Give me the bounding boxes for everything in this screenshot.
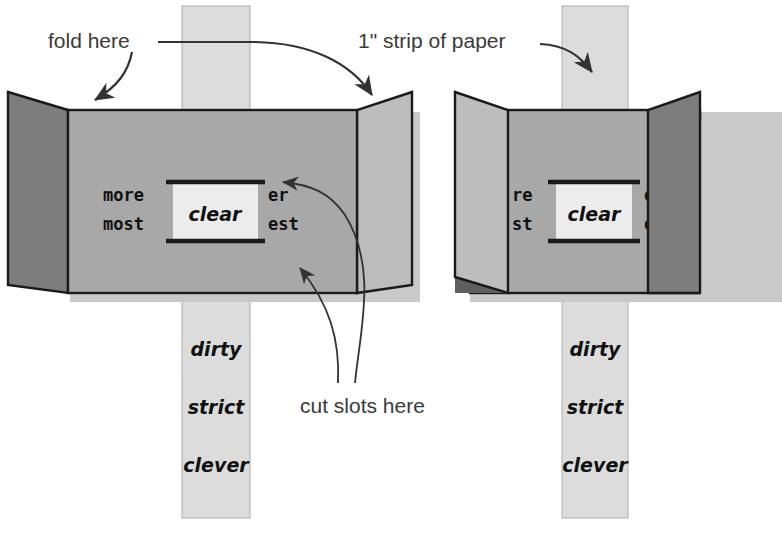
right-figure: re st er es clear dirty strict clever	[455, 6, 782, 518]
left-figure-left-flap	[8, 92, 68, 293]
right-figure-strip-word-strict: strict	[567, 396, 625, 418]
cut-slots-here-label: cut slots here	[300, 394, 425, 417]
right-figure-left-flap	[455, 92, 508, 293]
fold-here-leader-left	[95, 52, 132, 100]
left-figure-strip-word-dirty: dirty	[191, 338, 244, 360]
left-figure-right-flap	[357, 92, 412, 293]
diagram-canvas: more most er est clear dirty strict clev…	[0, 0, 782, 533]
right-figure-affix-re: re	[512, 185, 532, 205]
left-figure-affix-er: er	[268, 185, 288, 205]
fold-here-label: fold here	[48, 29, 130, 52]
right-figure-affix-st: st	[512, 214, 532, 234]
right-figure-window-word: clear	[568, 203, 622, 225]
left-figure-affix-est: est	[268, 214, 299, 234]
right-figure-right-flap	[648, 92, 700, 293]
right-figure-strip-word-dirty: dirty	[570, 338, 623, 360]
left-figure-window-word: clear	[189, 203, 243, 225]
right-figure-flap-cast-shadow	[700, 120, 740, 295]
left-figure: more most er est clear dirty strict clev…	[8, 6, 420, 518]
left-figure-strip-word-clever: clever	[183, 454, 250, 476]
strip-of-paper-label: 1" strip of paper	[358, 29, 506, 52]
right-figure-strip-word-clever: clever	[562, 454, 629, 476]
left-figure-affix-most: most	[103, 214, 144, 234]
left-figure-strip-word-strict: strict	[188, 396, 246, 418]
left-figure-affix-more: more	[103, 185, 144, 205]
